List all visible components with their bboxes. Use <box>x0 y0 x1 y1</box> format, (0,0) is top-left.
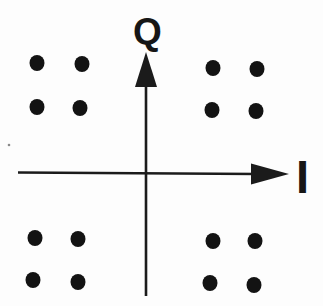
constellation-point-6 <box>205 102 220 118</box>
constellation-point-15 <box>247 277 262 293</box>
constellation-point-9 <box>71 231 86 247</box>
y-axis-arrowhead-icon <box>135 52 157 87</box>
constellation-figure: Q I <box>0 0 323 306</box>
constellation-point-13 <box>248 233 263 249</box>
x-axis-label: I <box>296 153 309 200</box>
scan-speck <box>8 144 11 147</box>
constellation-point-8 <box>28 230 43 246</box>
constellation-point-10 <box>26 272 41 288</box>
constellation-point-14 <box>203 275 218 291</box>
constellation-point-4 <box>206 60 221 76</box>
constellation-point-3 <box>73 100 88 116</box>
x-axis-arrowhead-icon <box>251 164 289 185</box>
constellation-point-11 <box>71 274 86 290</box>
constellation-point-2 <box>30 99 45 115</box>
constellation-point-5 <box>250 61 265 77</box>
constellation-point-12 <box>206 233 221 249</box>
constellation-point-0 <box>30 55 45 71</box>
constellation-point-7 <box>249 103 264 119</box>
y-axis-label: Q <box>133 13 162 50</box>
constellation-point-1 <box>75 56 90 72</box>
x-axis-line <box>18 173 257 175</box>
